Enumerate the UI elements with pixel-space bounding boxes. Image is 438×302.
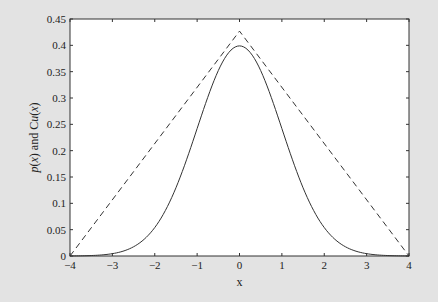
x-tick-label: 0 bbox=[237, 259, 243, 271]
y-tick-label: 0.25 bbox=[47, 118, 67, 130]
x-tick-label: 1 bbox=[279, 259, 285, 271]
y-tick-label: 0.35 bbox=[47, 66, 67, 78]
chart: −4−3−2−10123400.050.10.150.20.250.30.350… bbox=[0, 0, 438, 302]
y-tick-label: 0 bbox=[61, 250, 67, 262]
y-tick-label: 0.4 bbox=[52, 39, 66, 51]
x-axis-label: x bbox=[237, 275, 243, 289]
y-tick-label: 0.15 bbox=[47, 171, 67, 183]
y-tick-label: 0.05 bbox=[47, 224, 67, 236]
x-tick-label: −2 bbox=[149, 259, 161, 271]
x-tick-label: −3 bbox=[107, 259, 119, 271]
x-tick-label: 2 bbox=[322, 259, 328, 271]
y-tick-label: 0.2 bbox=[52, 145, 66, 157]
y-axis-label: p(x) and Cu(x) bbox=[27, 103, 41, 174]
y-tick-label: 0.3 bbox=[52, 92, 66, 104]
y-tick-label: 0.1 bbox=[52, 197, 66, 209]
x-tick-label: −1 bbox=[191, 259, 203, 271]
plot-area bbox=[70, 19, 409, 256]
x-tick-label: 4 bbox=[406, 259, 412, 271]
y-tick-label: 0.45 bbox=[47, 13, 67, 25]
x-tick-label: 3 bbox=[364, 259, 370, 271]
